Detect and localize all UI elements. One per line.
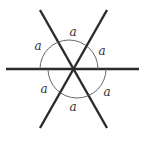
angle-label-2: a <box>34 39 41 53</box>
angle-diagram: aaaaaa <box>0 0 143 141</box>
upper-arc <box>40 40 98 69</box>
angle-label-3: a <box>98 44 105 58</box>
angle-label-1: a <box>69 25 76 39</box>
angle-label-4: a <box>40 82 47 96</box>
angle-label-6: a <box>69 100 76 114</box>
angle-label-5: a <box>103 85 110 99</box>
